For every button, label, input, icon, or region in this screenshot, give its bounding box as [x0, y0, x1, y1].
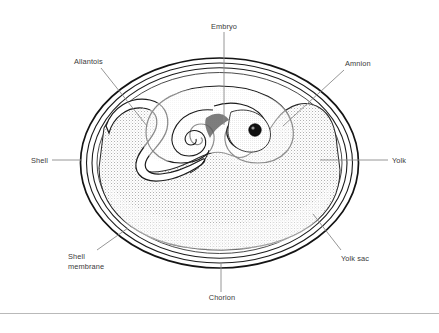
label-shell: Shell — [10, 156, 48, 166]
label-yolk-sac: Yolk sac — [341, 254, 369, 264]
label-shell-membrane-line2: membrane — [68, 262, 104, 271]
label-allantois: Allantois — [74, 57, 103, 67]
amniotic-egg-figure: Embryo Allantois Amnion Shell Yolk Shell… — [0, 0, 439, 333]
embryo-eye — [249, 124, 261, 136]
label-amnion: Amnion — [345, 59, 371, 69]
egg-diagram-canvas — [0, 0, 439, 333]
label-yolk: Yolk — [392, 156, 406, 166]
label-chorion: Chorion — [194, 293, 250, 303]
label-shell-membrane: Shell membrane — [68, 252, 104, 271]
label-embryo: Embryo — [196, 22, 252, 32]
label-shell-membrane-line1: Shell — [68, 252, 85, 261]
embryo-eye-highlight — [251, 126, 254, 129]
footer-divider — [0, 313, 439, 314]
